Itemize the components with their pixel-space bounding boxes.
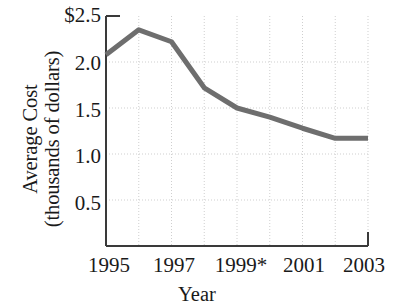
chart-figure: Average Cost (thousands of dollars) $2.5… (0, 0, 394, 303)
plot-area (0, 0, 394, 303)
gridlines (106, 16, 368, 246)
